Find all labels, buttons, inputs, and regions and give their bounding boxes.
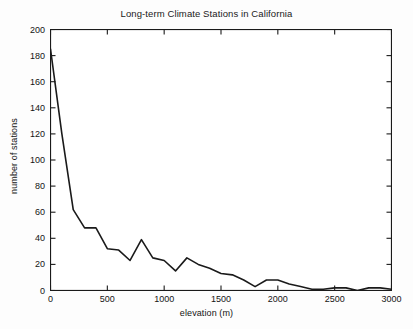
- x-tick-label: 500: [100, 294, 115, 304]
- y-axis-label: number of stations: [9, 96, 19, 216]
- y-tick-label: 160: [0, 77, 45, 87]
- x-tick-label: 1000: [154, 294, 174, 304]
- x-tick-label: 1500: [211, 294, 231, 304]
- y-tick-label: 80: [0, 181, 45, 191]
- x-tick-label: 2000: [268, 294, 288, 304]
- x-tick-label: 3000: [381, 294, 401, 304]
- figure-canvas: Long-term Climate Stations in California…: [0, 0, 413, 329]
- x-tick-label: 0: [48, 294, 53, 304]
- y-tick-label: 120: [0, 129, 45, 139]
- y-tick-label: 200: [0, 25, 45, 35]
- y-tick-label: 140: [0, 103, 45, 113]
- x-axis-label: elevation (m): [0, 308, 413, 318]
- plot-svg: [50, 29, 392, 291]
- x-tick-label: 2500: [325, 294, 345, 304]
- y-tick-label: 180: [0, 51, 45, 61]
- y-tick-label: 20: [0, 259, 45, 269]
- page-title: Long-term Climate Stations in California: [0, 8, 413, 19]
- axes-box: [51, 30, 392, 291]
- y-tick-label: 40: [0, 233, 45, 243]
- y-tick-label: 100: [0, 155, 45, 165]
- y-tick-label: 0: [0, 286, 45, 296]
- plot-area: [50, 29, 392, 291]
- y-tick-label: 60: [0, 207, 45, 217]
